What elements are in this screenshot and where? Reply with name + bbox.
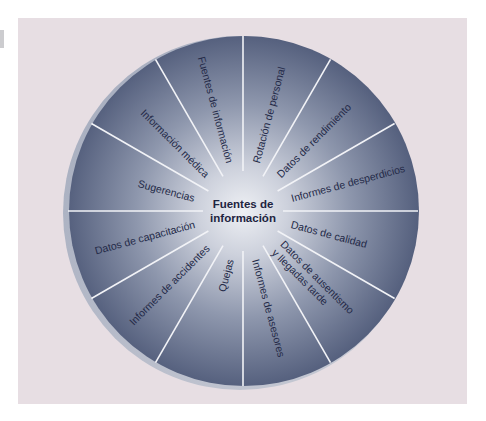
figure-page: Informes de desperdiciosDatos de rendimi… — [0, 0, 486, 421]
center-title-line2: información — [210, 212, 276, 224]
center-title-line1: Fuentes de — [213, 198, 274, 210]
information-sources-wheel: Informes de desperdiciosDatos de rendimi… — [0, 0, 486, 421]
